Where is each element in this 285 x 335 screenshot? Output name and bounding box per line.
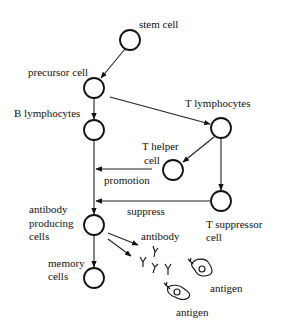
node-antibody-producing — [84, 215, 104, 235]
node-t-helper — [163, 160, 183, 180]
label-precursor-cell: precursor cell — [28, 66, 88, 78]
label-suppress: suppress — [127, 205, 165, 217]
node-b-lymphocytes — [84, 120, 104, 140]
edge-t-to-helper — [183, 137, 214, 162]
label-t-helper-line2: cell — [144, 154, 160, 166]
diagram-canvas: stem cell precursor cell B lymphocytes T… — [0, 0, 285, 335]
labels: stem cell precursor cell B lymphocytes T… — [14, 18, 263, 318]
label-antigen-bottom: antigen — [176, 306, 209, 318]
label-promotion: promotion — [104, 174, 150, 186]
label-antibody-producing-line2: producing — [29, 217, 74, 229]
label-t-lymphocytes: T lymphocytes — [185, 97, 250, 109]
label-antibody-producing-line3: cells — [29, 230, 49, 242]
label-memory-line1: memory — [48, 257, 85, 269]
edge-to-antibody-2 — [108, 239, 131, 256]
antigen-cell-icon — [188, 258, 212, 276]
label-antibody: antibody — [141, 230, 180, 242]
label-b-lymphocytes: B lymphocytes — [14, 107, 80, 119]
node-precursor-cell — [84, 78, 104, 98]
edge-stem-to-precursor — [101, 49, 125, 78]
node-t-suppressor — [211, 191, 231, 211]
antigen-cell-icon — [164, 282, 190, 300]
label-antibody-producing-line1: antibody — [29, 203, 68, 215]
immune-diagram: stem cell precursor cell B lymphocytes T… — [0, 0, 285, 335]
label-stem-cell: stem cell — [139, 18, 178, 30]
antibody-y-icon — [140, 246, 171, 275]
node-t-lymphocytes — [211, 118, 231, 138]
label-memory-line2: cells — [48, 270, 68, 282]
label-t-suppressor-line2: cell — [206, 231, 222, 243]
edge-to-antibody-1 — [108, 233, 138, 245]
label-t-helper-line1: T helper — [142, 140, 179, 152]
node-memory-cells — [84, 268, 104, 288]
label-t-suppressor-line1: T suppressor — [206, 218, 263, 230]
node-stem-cell — [120, 30, 140, 50]
label-antigen-right: antigen — [210, 282, 243, 294]
